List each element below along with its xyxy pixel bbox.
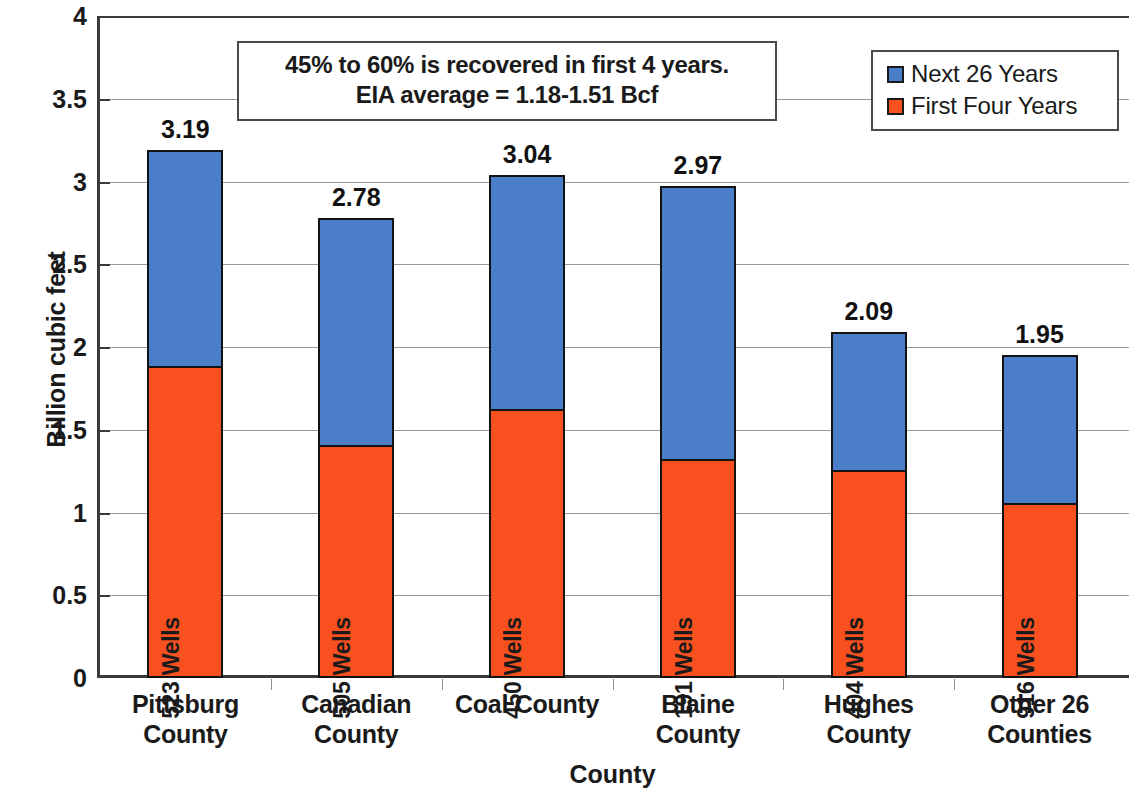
y-axis-tick-label: 3 — [7, 167, 87, 196]
x-axis-category-label: BlaineCounty — [612, 690, 783, 749]
x-axis-category-label-line: Coal County — [442, 690, 613, 720]
stacked-bar[interactable]: 916 Wells — [1002, 355, 1078, 678]
bar-segment-first-four-years[interactable]: 450 Wells — [489, 410, 565, 678]
y-axis-tick-label: 2.5 — [7, 250, 87, 279]
stacked-bar[interactable]: 404 Wells — [831, 332, 907, 678]
legend-label: Next 26 Years — [911, 60, 1058, 88]
x-axis-category-label-line: Hughes — [783, 690, 954, 720]
bar-total-label: 3.04 — [503, 140, 552, 169]
x-axis-category-label: PittsburgCounty — [100, 690, 271, 749]
x-axis-category-label: Coal County — [442, 690, 613, 749]
y-axis-tick-label: 4 — [7, 2, 87, 31]
y-axis-tick-label: 1.5 — [7, 415, 87, 444]
annotation-callout: 45% to 60% is recovered in first 4 years… — [237, 41, 777, 121]
legend-swatch-icon — [887, 66, 904, 83]
x-axis-tick-mark — [271, 679, 272, 690]
legend-item-first-four-years[interactable]: First Four Years — [887, 90, 1107, 122]
x-axis-tick-mark — [783, 679, 784, 690]
stacked-bar[interactable]: 505 Wells — [318, 218, 394, 678]
y-axis-tick-label: 2 — [7, 333, 87, 362]
x-axis-title: County — [100, 760, 1125, 789]
x-axis-category-label-line: Other 26 — [954, 690, 1125, 720]
x-axis-category-label-line: Canadian — [271, 690, 442, 720]
bar-total-label: 3.19 — [161, 115, 210, 144]
x-axis-tick-mark — [442, 679, 443, 690]
x-axis-category-label: Other 26Counties — [954, 690, 1125, 749]
bar-segment-next-26-years[interactable] — [831, 332, 907, 471]
bar-segment-next-26-years[interactable] — [489, 175, 565, 410]
x-axis-category-label-line: County — [783, 720, 954, 750]
bar-segment-next-26-years[interactable] — [147, 150, 223, 367]
x-axis-tick-mark — [954, 679, 955, 690]
stacked-bar[interactable]: 450 Wells — [489, 175, 565, 678]
bar-segment-next-26-years[interactable] — [1002, 355, 1078, 504]
x-axis-category-label-line: County — [100, 720, 271, 750]
bar-segment-first-four-years[interactable]: 404 Wells — [831, 471, 907, 678]
x-axis-labels: PittsburgCountyCanadianCountyCoal County… — [100, 690, 1125, 749]
x-axis-category-label-line: Counties — [954, 720, 1125, 750]
x-axis-tick-mark — [613, 679, 614, 690]
bar-total-label: 1.95 — [1015, 320, 1064, 349]
x-axis-category-label: HughesCounty — [783, 690, 954, 749]
bar-total-label: 2.09 — [844, 297, 893, 326]
bar-segment-next-26-years[interactable] — [660, 186, 736, 459]
annotation-line-2: EIA average = 1.18-1.51 Bcf — [249, 80, 765, 110]
bar-total-label: 2.97 — [674, 151, 723, 180]
x-axis-category-label-line: Pittsburg — [100, 690, 271, 720]
legend-swatch-icon — [887, 98, 904, 115]
bar-segment-first-four-years[interactable]: 916 Wells — [1002, 504, 1078, 678]
y-axis-tick-label: 3.5 — [7, 84, 87, 113]
chart-legend: Next 26 Years First Four Years — [871, 50, 1119, 131]
annotation-line-1: 45% to 60% is recovered in first 4 years… — [249, 50, 765, 80]
bar-segment-first-four-years[interactable]: 505 Wells — [318, 446, 394, 678]
bar-segment-first-four-years[interactable]: 191 Wells — [660, 460, 736, 678]
x-axis-category-label: CanadianCounty — [271, 690, 442, 749]
bar-segment-next-26-years[interactable] — [318, 218, 394, 446]
bar-segment-first-four-years[interactable]: 523 Wells — [147, 367, 223, 678]
x-axis-category-label-line: County — [271, 720, 442, 750]
y-axis-tick-label: 1 — [7, 498, 87, 527]
x-axis-category-label-line: Blaine — [612, 690, 783, 720]
stacked-bar[interactable]: 523 Wells — [147, 150, 223, 678]
stacked-bar[interactable]: 191 Wells — [660, 186, 736, 678]
legend-label: First Four Years — [911, 92, 1077, 120]
legend-item-next-26-years[interactable]: Next 26 Years — [887, 58, 1107, 90]
x-axis-category-label-line: County — [612, 720, 783, 750]
y-axis-tick-label: 0.5 — [7, 581, 87, 610]
y-axis-tick-label: 0 — [7, 664, 87, 693]
bar-total-label: 2.78 — [332, 183, 381, 212]
